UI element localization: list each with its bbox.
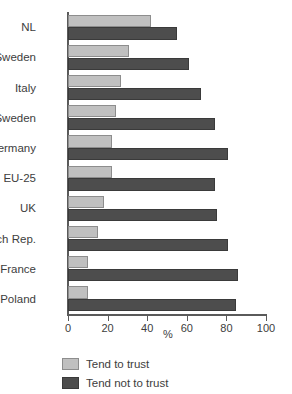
x-tick-40 — [147, 316, 148, 321]
x-tick-label-60: 60 — [181, 322, 193, 334]
legend-swatch-icon-light — [62, 358, 79, 370]
category-label-eu-25: EU-25 — [0, 172, 36, 184]
bar-sweden-tend-not-to-trust — [68, 118, 215, 130]
x-tick-label-80: 80 — [220, 322, 232, 334]
bar-france-tend-not-to-trust — [68, 269, 238, 281]
category-label-poland: Poland — [0, 293, 36, 305]
bar-uk-tend-not-to-trust — [68, 209, 217, 221]
category-label-sweden: Sweden — [0, 112, 36, 124]
bar-czch-rep-tend-to-trust — [68, 226, 98, 238]
bar-germany-tend-not-to-trust — [68, 148, 228, 160]
bar-nl-tend-not-to-trust — [68, 27, 177, 39]
bar-uk-tend-to-trust — [68, 196, 104, 208]
x-tick-label-0: 0 — [65, 322, 71, 334]
x-tick-80 — [226, 316, 227, 321]
x-tick-0 — [68, 316, 69, 321]
x-tick-100 — [266, 316, 267, 321]
bar-germany-tend-to-trust — [68, 135, 112, 147]
bar-poland-tend-not-to-trust — [68, 299, 236, 311]
legend-label: Tend to trust — [86, 358, 149, 370]
category-label-czch-rep: Czch Rep. — [0, 233, 36, 245]
category-label-uk: UK — [0, 202, 36, 214]
x-tick-60 — [187, 316, 188, 321]
category-label-sweden: Sweden — [0, 51, 36, 63]
x-axis-title: % — [163, 328, 173, 340]
category-label-france: France — [0, 263, 36, 275]
legend-label: Tend not to trust — [86, 377, 168, 389]
bar-czch-rep-tend-not-to-trust — [68, 239, 228, 251]
x-tick-20 — [108, 316, 109, 321]
bar-italy-tend-not-to-trust — [68, 88, 201, 100]
category-label-germany: Germany — [0, 142, 36, 154]
plot-area: 020406080100 NLSwedenItalySwedenGermanyE… — [68, 12, 266, 314]
legend-swatch-icon-dark — [62, 377, 79, 389]
bar-sweden-tend-not-to-trust — [68, 58, 189, 70]
x-tick-label-20: 20 — [101, 322, 113, 334]
bar-chart-figure: 020406080100 NLSwedenItalySwedenGermanyE… — [0, 0, 292, 394]
legend-item-tend-to-trust: Tend to trust — [62, 355, 168, 372]
bar-nl-tend-to-trust — [68, 15, 151, 27]
bar-sweden-tend-to-trust — [68, 105, 116, 117]
legend-item-tend-not-to-trust: Tend not to trust — [62, 374, 168, 391]
bar-eu-25-tend-to-trust — [68, 166, 112, 178]
bar-poland-tend-to-trust — [68, 286, 88, 298]
bar-italy-tend-to-trust — [68, 75, 121, 87]
x-tick-label-40: 40 — [141, 322, 153, 334]
x-axis-spine — [67, 314, 267, 316]
category-label-nl: NL — [0, 21, 36, 33]
chart-legend: Tend to trustTend not to trust — [62, 355, 168, 393]
bar-france-tend-to-trust — [68, 256, 88, 268]
bar-eu-25-tend-not-to-trust — [68, 178, 215, 190]
x-tick-label-100: 100 — [257, 322, 275, 334]
category-label-italy: Italy — [0, 82, 36, 94]
bar-sweden-tend-to-trust — [68, 45, 129, 57]
